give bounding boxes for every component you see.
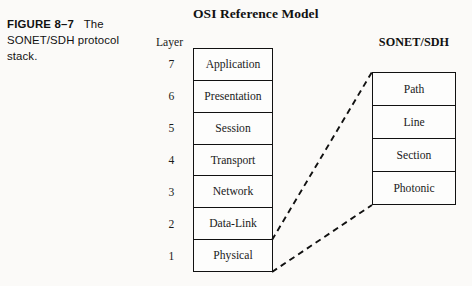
connector-physical-to-sonet-top <box>272 72 372 240</box>
layer-number: 1 <box>156 240 187 272</box>
osi-layer-data-link: Data-Link <box>194 208 272 240</box>
layer-number: 3 <box>156 176 187 208</box>
sonet-layer-stack: Path Line Section Photonic <box>372 72 456 205</box>
osi-layer-network: Network <box>194 176 272 208</box>
osi-layer-physical: Physical <box>194 240 272 271</box>
osi-layer-presentation: Presentation <box>194 81 272 113</box>
osi-layer-stack: Application Presentation Session Transpo… <box>193 48 273 272</box>
connector-physical-to-sonet-bottom <box>272 205 372 272</box>
osi-layer-application: Application <box>194 49 272 81</box>
osi-reference-model-title: OSI Reference Model <box>193 6 353 22</box>
sonet-layer-path: Path <box>373 73 455 106</box>
figure-caption: FIGURE 8–7 The SONET/SDH protocol stack. <box>7 16 147 65</box>
sonet-sdh-title: SONET/SDH <box>372 35 456 50</box>
osi-layer-transport: Transport <box>194 145 272 177</box>
sonet-layer-photonic: Photonic <box>373 172 455 204</box>
layer-number: 7 <box>156 48 187 80</box>
layer-number: 5 <box>156 112 187 144</box>
figure-caption-label: FIGURE 8–7 <box>7 18 74 30</box>
layer-number: 2 <box>156 208 187 240</box>
figure-8-7: FIGURE 8–7 The SONET/SDH protocol stack.… <box>0 0 472 286</box>
sonet-layer-section: Section <box>373 139 455 172</box>
layer-number-column: 7 6 5 4 3 2 1 <box>156 48 187 272</box>
layer-number: 4 <box>156 144 187 176</box>
osi-layer-session: Session <box>194 113 272 145</box>
sonet-layer-line: Line <box>373 106 455 139</box>
layer-number: 6 <box>156 80 187 112</box>
